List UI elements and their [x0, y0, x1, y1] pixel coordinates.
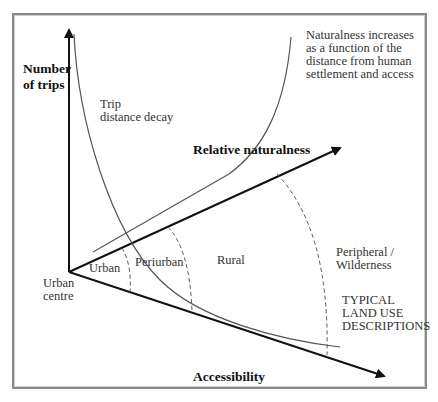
zone-periurban: Periurban — [135, 256, 184, 269]
trip-decay-label: Trip distance decay — [100, 98, 173, 124]
periurban-boundary — [168, 227, 192, 312]
naturalness-note: Naturalness increases as a function of t… — [306, 29, 414, 81]
accessibility-axis-line — [69, 272, 384, 376]
y-axis-label: Number of trips — [23, 61, 71, 93]
urban-boundary — [122, 248, 130, 292]
zone-peripheral-wilderness: Peripheral / Wilderness — [336, 246, 394, 272]
trip-decay-curve — [74, 34, 340, 347]
naturalness-axis-line — [69, 148, 340, 272]
zone-urban: Urban — [89, 262, 120, 275]
zone-rural: Rural — [217, 254, 245, 267]
urban-centre-label: Urban centre — [43, 277, 74, 303]
accessibility-axis-label: Accessibility — [193, 369, 265, 385]
rural-boundary — [277, 174, 327, 355]
naturalness-axis-label: Relative naturalness — [193, 142, 310, 158]
land-use-caption: TYPICAL LAND USE DESCRIPTIONS — [342, 294, 430, 333]
